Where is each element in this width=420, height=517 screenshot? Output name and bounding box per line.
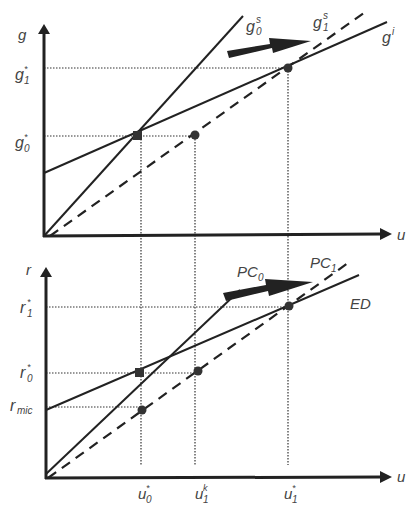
svg-text:g: g [246,18,255,35]
svg-text:s: s [256,14,261,25]
svg-text:0: 0 [256,26,262,37]
svg-text:k: k [203,483,208,493]
tick-label-g0-star: g * 0 [15,132,30,154]
svg-text:mic: mic [17,405,33,416]
svg-text:g: g [382,29,391,46]
curve-label-g0s: g s 0 [246,14,262,37]
tick-label-u0-star: u * 0 [138,483,152,505]
bottom-panel: r u r * 1 r * 0 r mic PC 0 PC 1 ED u * 0 [10,254,406,505]
svg-text:*: * [146,483,150,493]
svg-text:1: 1 [203,494,209,505]
svg-text:0: 0 [24,143,30,154]
tick-label-rmic: r mic [10,397,33,416]
svg-text:s: s [323,10,328,21]
curve-label-ed: ED [350,295,371,312]
point-u1k [191,131,200,140]
curve-g0s [44,16,243,236]
equilibrium-point-0 [133,131,142,140]
tick-label-u1k: u k 1 [195,483,209,505]
svg-text:1: 1 [27,308,33,319]
x-axis-arrow-icon [380,228,392,240]
y-axis-arrow-icon [38,24,50,34]
svg-text:*: * [24,64,28,74]
x-axis-label-u-bottom: u [397,468,406,485]
equilibrium-point-r0 [135,368,144,377]
svg-text:*: * [27,297,31,307]
y-axis-r-arrow-icon [40,267,52,277]
curve-label-pc0: PC 0 [237,263,264,283]
point-rmic [138,406,147,415]
curve-g1s [50,10,368,236]
svg-text:PC: PC [237,263,258,280]
svg-text:*: * [27,362,31,372]
curve-pc0 [46,290,240,474]
top-panel: g u g * 1 g * 0 g s 0 g s 1 g i [15,10,406,465]
tick-label-r0-star: r * 0 [20,362,33,384]
diagram: g u g * 1 g * 0 g s 0 g s 1 g i [0,0,420,517]
svg-text:1: 1 [24,75,30,86]
x-axis-label-u-top: u [397,226,406,243]
curve-label-g1s: g s 1 [313,10,329,33]
equilibrium-point-r1 [285,302,294,311]
curve-ed [46,275,359,410]
svg-text:r: r [20,364,26,381]
svg-text:*: * [24,132,28,142]
svg-text:1: 1 [331,263,337,274]
svg-text:g: g [15,134,24,151]
y-axis-label-g: g [18,26,27,43]
svg-text:g: g [313,14,322,31]
x-axis-u-bottom [45,477,382,478]
svg-text:0: 0 [27,373,33,384]
svg-text:PC: PC [310,254,331,271]
svg-text:*: * [292,483,296,493]
y-axis-label-r: r [26,261,32,278]
svg-text:g: g [15,66,24,83]
svg-text:1: 1 [323,22,329,33]
curve-gi [44,22,387,173]
curve-label-gi: g i [382,26,395,46]
x-axis-bottom-arrow-icon [380,471,392,483]
point-r-u1k [194,367,203,376]
curve-label-pc1: PC 1 [310,254,337,274]
equilibrium-point-1 [284,64,293,73]
x-axis-u-top [43,234,382,236]
svg-text:r: r [10,397,16,414]
svg-text:1: 1 [292,494,298,505]
tick-label-g1-star: g * 1 [15,64,30,86]
svg-text:i: i [392,26,395,37]
tick-label-r1-star: r * 1 [20,297,33,319]
tick-label-u1-star: u * 1 [284,483,298,505]
svg-text:0: 0 [258,272,264,283]
svg-text:0: 0 [146,494,152,505]
svg-text:r: r [20,299,26,316]
shift-arrow-icon [227,38,311,58]
